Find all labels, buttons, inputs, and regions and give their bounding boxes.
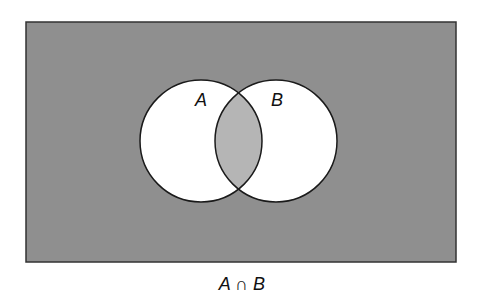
- diagram-caption: A ∩ B: [0, 274, 484, 294]
- set-a-label: A: [194, 90, 207, 110]
- set-b-label: B: [271, 90, 283, 110]
- venn-diagram: A B: [0, 0, 484, 294]
